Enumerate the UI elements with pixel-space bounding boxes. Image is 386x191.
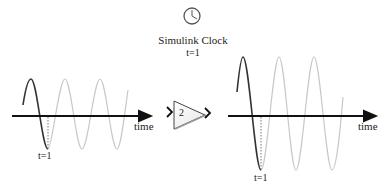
- clock-title: Simulink Clock: [0, 34, 386, 46]
- gain-value: 2: [179, 107, 184, 118]
- output-wave-future: [261, 57, 343, 170]
- input-wave-past: [23, 79, 48, 149]
- output-wave-past: [237, 57, 261, 170]
- gain-output-port-icon: [205, 108, 210, 118]
- input-wave-future: [48, 79, 128, 149]
- gain-input-port-icon: [167, 107, 172, 117]
- input-axis-label: time: [134, 120, 154, 132]
- input-marker-label: t=1: [38, 150, 51, 161]
- clock-time-label: t=1: [0, 47, 386, 58]
- output-marker-label: t=1: [254, 172, 267, 183]
- clock-icon: [184, 8, 200, 24]
- diagram-canvas: [0, 0, 386, 191]
- output-axis-label: time: [358, 120, 378, 132]
